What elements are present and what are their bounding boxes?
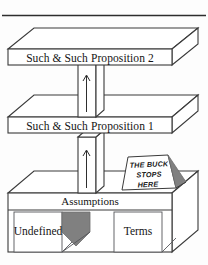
diagram-canvas: Such & Such Proposition 2 Such & Such Pr… [0, 0, 208, 265]
panel-terms [114, 212, 162, 252]
slab-2-top-face [8, 28, 198, 49]
slab-proposition-2 [8, 28, 198, 65]
panel-undefined [14, 212, 62, 252]
diagram-vector-layer [0, 0, 208, 265]
tent-card-sign [122, 155, 186, 190]
pillar-lower [78, 130, 104, 193]
slab-2-front-face [8, 49, 172, 65]
sign-front-face [122, 155, 176, 190]
pillar-lower-side-face [96, 130, 104, 193]
slab-1-front-face [8, 117, 172, 133]
